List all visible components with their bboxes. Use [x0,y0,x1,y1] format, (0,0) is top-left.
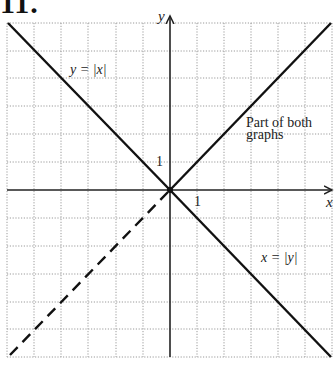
x-axis-label: x [326,194,333,211]
origin-point [167,187,173,193]
shared-part-note-line2: graphs [246,129,312,141]
y-tick-label-1: 1 [156,154,163,170]
shared-part-note: Part of both graphs [246,117,312,141]
y-axis-label: y [158,8,165,25]
graph-figure [0,0,334,372]
x-tick-label-1: 1 [194,194,201,210]
label-y-equals-abs-x: y = |x| [70,62,107,78]
label-x-equals-abs-y: x = |y| [261,250,298,266]
